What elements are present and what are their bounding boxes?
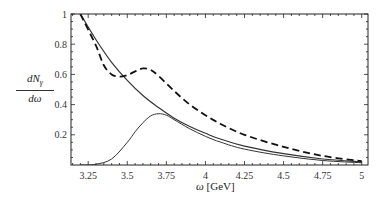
y-tick-label: 0.2 <box>55 129 68 140</box>
background-curve <box>80 14 361 162</box>
y-tick-label: 0.4 <box>55 99 68 110</box>
x-tick-label: 3.5 <box>121 170 134 181</box>
x-axis-unit: [GeV] <box>207 180 235 192</box>
chart-plot-area: 3.253.53.7544.254.54.7550.20.40.60.81 <box>0 0 384 205</box>
axis-ticks: 3.253.53.7544.254.54.7550.20.40.60.81 <box>55 9 369 182</box>
x-axis-symbol: ω <box>196 180 204 192</box>
y-tick-label: 0.8 <box>55 39 68 50</box>
x-axis-label: ω [GeV] <box>196 180 235 192</box>
x-tick-label: 4.25 <box>236 170 254 181</box>
y-tick-label: 1 <box>62 9 67 20</box>
axes-frame <box>71 14 368 165</box>
y-axis-label-denominator: dω <box>16 91 54 105</box>
x-tick-label: 3.75 <box>158 170 176 181</box>
y-tick-label: 0.6 <box>55 69 68 80</box>
x-tick-label: 4.75 <box>314 170 332 181</box>
y-axis-label: dNγ dω <box>16 72 54 105</box>
data-curves <box>80 14 361 165</box>
x-tick-label: 3.25 <box>79 170 97 181</box>
axes-border <box>71 14 368 165</box>
x-tick-label: 4.5 <box>277 170 290 181</box>
x-tick-label: 5 <box>359 170 364 181</box>
y-axis-label-numerator: dNγ <box>16 72 54 91</box>
